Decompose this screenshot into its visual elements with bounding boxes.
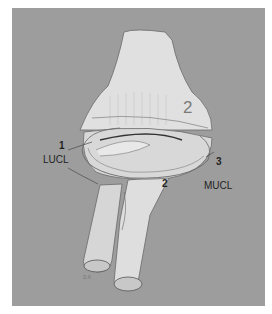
label-2-top: 2	[183, 99, 192, 116]
label-lucl: LUCL	[43, 155, 69, 165]
artist-signature: D.K	[83, 274, 92, 280]
label-mucl: MUCL	[204, 181, 232, 191]
label-3: 3	[216, 157, 222, 167]
label-1: 1	[59, 141, 65, 151]
elbow-illustration: D.K	[0, 0, 272, 314]
label-2-ring: 2	[162, 179, 168, 189]
forearm-bones	[84, 176, 171, 291]
